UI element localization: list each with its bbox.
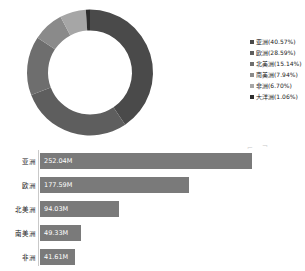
legend-item-3[interactable]: 北美洲(15.14%) — [250, 59, 302, 68]
legend-swatch-icon — [250, 62, 254, 66]
legend-item-label: 大洋洲(1.06%) — [256, 92, 298, 101]
legend-item-1[interactable]: 亚洲(40.57%) — [250, 37, 302, 46]
bar-value-label: 94.03M — [44, 201, 68, 217]
legend-item-label: 欧洲(28.59%) — [256, 48, 296, 57]
legend-item-label: 非洲(6.70%) — [256, 81, 292, 90]
legend-item-label: 南美洲(7.94%) — [256, 70, 298, 79]
bar-category-label: 欧洲 — [0, 180, 39, 190]
legend-item-label: 亚洲(40.57%) — [256, 37, 296, 46]
bar-track: 252.04M — [39, 153, 305, 169]
bar-row: 亚洲252.04M — [0, 150, 305, 172]
bar-row: 非洲41.61M — [0, 246, 305, 268]
pie-legend: 亚洲(40.57%)欧洲(28.59%)北美洲(15.14%)南美洲(7.94%… — [250, 37, 302, 101]
decorative-mark: ¬ — [262, 142, 268, 150]
bar-track: 41.61M — [39, 249, 305, 265]
legend-item-5[interactable]: 非洲(6.70%) — [250, 81, 302, 90]
bar-track: 94.03M — [39, 201, 305, 217]
bar-row: 南美洲49.33M — [0, 222, 305, 244]
bar-category-label: 亚洲 — [0, 156, 39, 166]
bar-value-label: 177.59M — [44, 177, 72, 193]
donut-segment-1[interactable] — [90, 10, 153, 125]
legend-item-label: 北美洲(15.14%) — [256, 59, 302, 68]
bar-category-label: 非洲 — [0, 252, 39, 262]
donut-chart-svg — [0, 0, 180, 142]
donut-segment-group — [27, 10, 153, 136]
legend-swatch-icon — [250, 73, 254, 77]
bar-value-label: 49.33M — [44, 225, 68, 241]
bar-track: 177.59M — [39, 177, 305, 193]
legend-swatch-icon — [250, 95, 254, 99]
legend-swatch-icon — [250, 40, 254, 44]
chart-page: 亚洲(40.57%)欧洲(28.59%)北美洲(15.14%)南美洲(7.94%… — [0, 0, 305, 271]
bar-category-label: 北美洲 — [0, 204, 39, 214]
bar-row: 北美洲94.03M — [0, 198, 305, 220]
legend-item-4[interactable]: 南美洲(7.94%) — [250, 70, 302, 79]
bar-value-label: 41.61M — [44, 249, 68, 265]
bar-chart: ⌐ ¬ 亚洲252.04M欧洲177.59M北美洲94.03M南美洲49.33M… — [0, 148, 305, 271]
donut-segment-2[interactable] — [31, 88, 125, 136]
legend-swatch-icon — [250, 84, 254, 88]
bar-row: 欧洲177.59M — [0, 174, 305, 196]
donut-chart — [0, 0, 180, 140]
bar-track: 49.33M — [39, 225, 305, 241]
legend-item-6[interactable]: 大洋洲(1.06%) — [250, 92, 302, 101]
legend-item-2[interactable]: 欧洲(28.59%) — [250, 48, 302, 57]
bar-category-label: 南美洲 — [0, 228, 39, 238]
legend-swatch-icon — [250, 51, 254, 55]
bar-value-label: 252.04M — [44, 153, 72, 169]
